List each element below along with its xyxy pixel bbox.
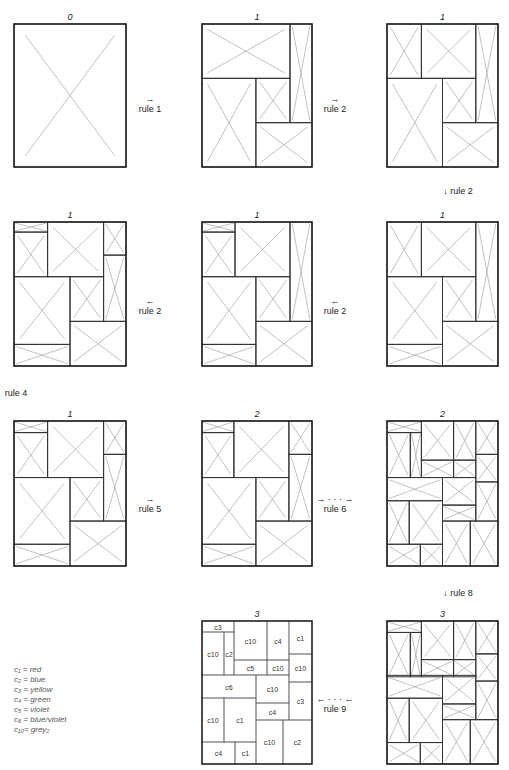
stage-panel-p3: 1 — [14, 222, 126, 366]
legend-item: c₁₀= grey₂ — [14, 725, 66, 735]
arrow-icon: ← · · · ← — [310, 694, 360, 704]
svg-text:c10: c10 — [245, 638, 256, 645]
svg-text:c4: c4 — [215, 750, 223, 757]
stage-number: 2 — [237, 409, 277, 419]
legend-item: c₆ = blue/violet — [14, 715, 66, 725]
stage-number: 2 — [423, 409, 463, 419]
legend-item: c₂ = blue — [14, 675, 66, 685]
stage-number: 1 — [237, 210, 277, 220]
rule-label: →rule 2 — [310, 94, 360, 114]
rule-label: ↓ rule 2 — [433, 186, 483, 196]
legend-item: c₁ = red — [14, 665, 66, 675]
arrow-icon: → — [310, 94, 360, 104]
stage-number: 1 — [423, 12, 463, 22]
svg-text:c3: c3 — [297, 698, 305, 705]
stage-panel-p4: 1 — [202, 222, 312, 366]
rule-label: rule 4 — [0, 388, 41, 398]
stage-panel-p10: 3 — [387, 621, 498, 764]
stage-number: 1 — [237, 12, 277, 22]
svg-text:c10: c10 — [267, 686, 278, 693]
stage-panel-p2: 1 — [387, 24, 498, 167]
legend-item: c₃ = yellow — [14, 685, 66, 695]
stage-number: 1 — [423, 210, 463, 220]
rule-label: →rule 1 — [125, 94, 175, 114]
svg-text:c4: c4 — [269, 709, 277, 716]
rule-label: → · · · →rule 6 — [310, 494, 360, 514]
arrow-icon: → · · · → — [310, 494, 360, 504]
stage-number: 0 — [50, 12, 90, 22]
stage-panel-p6: 1 — [14, 421, 126, 566]
svg-text:c1: c1 — [242, 750, 250, 757]
stage-panel-p0: 0 — [14, 24, 126, 167]
stage-number: 1 — [50, 409, 90, 419]
stage-panel-p7: 2 — [202, 421, 312, 566]
stage-panel-p5: 1 — [387, 222, 498, 366]
svg-text:c6: c6 — [225, 684, 233, 691]
stage-number: 3 — [237, 609, 277, 619]
svg-text:c3: c3 — [214, 624, 222, 631]
svg-text:c10: c10 — [295, 665, 306, 672]
legend-item: c₄ = green — [14, 695, 66, 705]
stage-number: 3 — [423, 609, 463, 619]
rule-label: ← · · · ←rule 9 — [310, 694, 360, 714]
svg-text:c10: c10 — [272, 665, 283, 672]
stage-panel-p8: 2 — [387, 421, 498, 566]
legend-item: c₅ = violet — [14, 705, 66, 715]
svg-text:c2: c2 — [225, 651, 233, 658]
svg-text:c2: c2 — [294, 739, 302, 746]
arrow-icon: → — [125, 94, 175, 104]
arrow-icon: → — [125, 494, 175, 504]
svg-text:c10: c10 — [207, 651, 218, 658]
svg-text:c1: c1 — [297, 635, 305, 642]
rule-label: ←rule 2 — [125, 296, 175, 316]
color-legend: c₁ = red c₂ = blue c₃ = yellow c₄ = gree… — [14, 665, 66, 735]
svg-text:c4: c4 — [274, 638, 282, 645]
stage-panel-p1: 1 — [202, 24, 312, 167]
stage-panel-p9: 3c3c10c2c10c4c5c10c1c10c3c6c10c1c10c4c10… — [202, 621, 312, 764]
rule-label: →rule 5 — [125, 494, 175, 514]
svg-text:c1: c1 — [236, 717, 244, 724]
rule-label: ↓ rule 8 — [433, 588, 483, 598]
svg-text:c5: c5 — [247, 665, 255, 672]
stage-number: 1 — [50, 210, 90, 220]
rule-label: ←rule 2 — [310, 296, 360, 316]
arrow-icon: ← — [310, 296, 360, 306]
svg-text:c10: c10 — [264, 739, 275, 746]
svg-text:c10: c10 — [207, 717, 218, 724]
arrow-icon: ← — [125, 296, 175, 306]
